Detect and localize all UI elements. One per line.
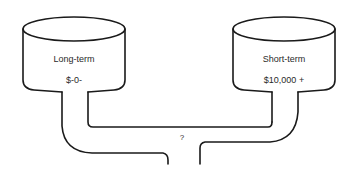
tank-pipe-diagram [0, 0, 355, 172]
short-term-pipe [200, 92, 298, 164]
short-term-label: Short-term [234, 54, 334, 64]
short-term-value: $10,000 + [234, 75, 334, 85]
junction-question-mark: ? [175, 133, 189, 142]
long-term-value: $-0- [24, 75, 124, 85]
long-term-pipe [62, 92, 272, 164]
long-term-label: Long-term [24, 54, 124, 64]
